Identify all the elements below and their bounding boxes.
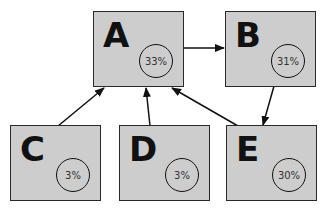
edge-c-to-a — [58, 88, 104, 126]
node-d-percent-circle: 3% — [165, 158, 199, 192]
node-c-label: C — [20, 130, 45, 168]
node-b-percent-circle: 31% — [271, 44, 305, 78]
node-c: C 3% — [10, 125, 101, 201]
edge-b-to-e — [263, 86, 274, 125]
node-e-label: E — [236, 130, 259, 168]
node-c-percent-circle: 3% — [56, 158, 90, 192]
node-d-label: D — [129, 130, 157, 168]
node-e: E 30% — [226, 125, 317, 201]
edge-e-to-a — [172, 88, 238, 126]
node-b-label: B — [235, 16, 261, 54]
diagram-canvas: A 33% B 31% C 3% D 3% E 30% — [0, 0, 325, 209]
node-a-label: A — [103, 16, 129, 54]
node-b: B 31% — [225, 11, 316, 87]
node-e-percent-circle: 30% — [272, 158, 306, 192]
node-a-percent-circle: 33% — [139, 44, 173, 78]
node-a: A 33% — [93, 11, 184, 87]
edge-d-to-a — [146, 88, 150, 126]
node-d: D 3% — [119, 125, 210, 201]
